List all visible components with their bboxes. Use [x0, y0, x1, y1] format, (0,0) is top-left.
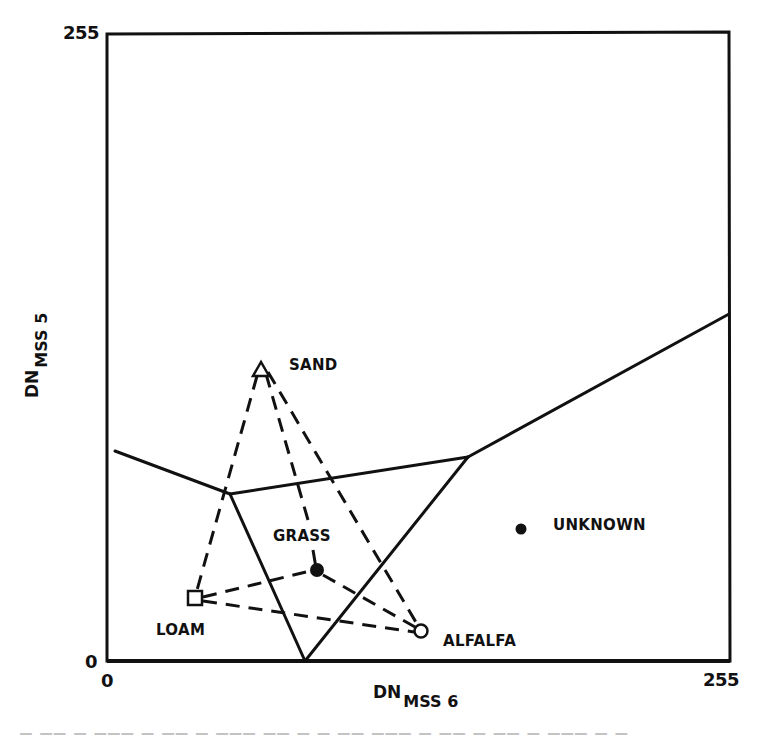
- link-sand-alfalfa: [268, 372, 417, 624]
- loam-label: LOAM: [156, 621, 205, 639]
- boundary-line: [230, 457, 468, 494]
- alfalfa-circle-marker: [415, 625, 428, 638]
- link-loam-alfalfa: [203, 601, 414, 632]
- loam-square-marker: [188, 591, 202, 605]
- sand-label: SAND: [289, 356, 338, 374]
- y-tick-0: 0: [85, 651, 97, 672]
- x-axis-label: DNMSS 6: [373, 682, 458, 702]
- y-axis-label-sub: MSS 5: [32, 313, 51, 368]
- boundary-line: [305, 457, 468, 661]
- boundary-line: [230, 494, 305, 661]
- x-axis-label-main: DN: [373, 682, 401, 702]
- y-axis-label-main: DN: [22, 370, 42, 398]
- boundary-line: [115, 451, 230, 494]
- x-tick-0: 0: [101, 670, 113, 691]
- cropped-caption: ▀ ▀▀ ▀ ▀▀▀ ▀ ▀▀ ▀ ▀▀▀ ▀▀ ▀ ▀ ▀▀ ▀▀▀ ▀ ▀▀…: [20, 727, 740, 735]
- y-tick-255: 255: [63, 22, 99, 43]
- alfalfa-label: ALFALFA: [443, 632, 516, 650]
- x-tick-255: 255: [703, 669, 739, 690]
- grass-dot-marker: [310, 563, 324, 577]
- x-axis-label-sub: MSS 6: [403, 692, 458, 711]
- link-loam-grass: [203, 571, 310, 597]
- plot-canvas: [0, 0, 757, 735]
- scatter-figure: 255 0 0 255 DNMSS 6 DNMSS 5 SAND GRASS L…: [0, 0, 757, 735]
- plot-frame: [107, 32, 730, 661]
- unknown-dot-marker: [516, 524, 527, 535]
- grass-label: GRASS: [273, 527, 331, 545]
- link-sand-loam: [197, 376, 257, 590]
- boundary-line: [468, 314, 729, 457]
- y-axis-label: DNMSS 5: [22, 313, 42, 398]
- sand-triangle-marker: [253, 362, 269, 376]
- unknown-label: UNKNOWN: [553, 516, 646, 534]
- decision-boundaries: [115, 314, 729, 661]
- link-sand-grass: [266, 374, 308, 520]
- distance-links: [197, 372, 417, 632]
